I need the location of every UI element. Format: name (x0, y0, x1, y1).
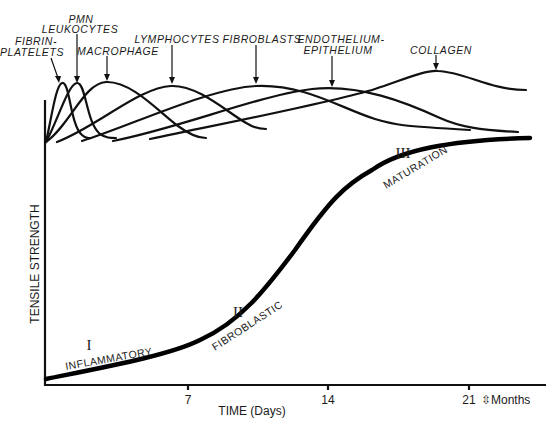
tensile-strength-curve (46, 138, 530, 379)
months-extension-label: ⇳Months (481, 393, 530, 407)
label-lymphocytes: LYMPHOCYTES (135, 33, 220, 45)
arrow-collagen (433, 55, 439, 70)
phase-1-numeral: I (87, 337, 92, 353)
label-epithelium: EPITHELIUM (303, 44, 372, 56)
label-platelets: PLATELETS (0, 46, 64, 58)
label-macrophage: MACROPHAGE (77, 45, 159, 57)
arrow-endothelium-epithelium (329, 56, 335, 87)
wound-healing-diagram: 7 14 21 ⇳Months TIME (Days) TENSILE STRE… (0, 0, 555, 428)
phase-3-numeral: III (396, 145, 411, 161)
arrow-fibroblasts (253, 45, 259, 84)
label-fibroblasts: FIBROBLASTS (223, 33, 302, 45)
x-tick-label-7: 7 (185, 393, 192, 407)
label-leukocytes: LEUKOCYTES (42, 23, 119, 35)
label-collagen: COLLAGEN (410, 44, 472, 56)
arrow-lymphocytes (169, 45, 175, 84)
arrow-macrophage (104, 56, 110, 81)
phase-2-numeral: II (233, 304, 243, 320)
arrow-fibrin-platelets (51, 58, 61, 83)
x-tick-label-14: 14 (321, 393, 335, 407)
x-tick-label-21: 21 (462, 393, 476, 407)
y-axis-label: TENSILE STRENGTH (28, 204, 42, 323)
x-axis-label: TIME (Days) (218, 404, 285, 418)
arrow-pmn-leukocytes (74, 34, 80, 83)
